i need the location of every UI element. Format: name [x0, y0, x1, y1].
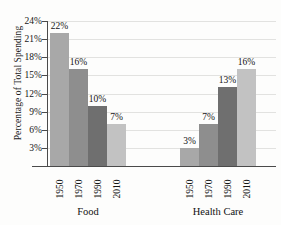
x-axis-group-label: Food	[43, 206, 133, 217]
bar-value-label: 16%	[62, 57, 96, 67]
x-axis-year-label: 1950	[55, 174, 65, 204]
x-axis-year-label: 1990	[223, 174, 233, 204]
y-axis-tick	[42, 148, 48, 149]
bar-chart: Percentage of Total Spending 3%6%9%12%15…	[0, 0, 281, 225]
y-axis-tick	[42, 112, 48, 113]
y-axis-tick	[42, 130, 48, 131]
bar-value-label: 7%	[100, 112, 134, 122]
y-axis-tick	[42, 94, 48, 95]
bar-value-label: 22%	[43, 21, 77, 31]
x-axis-year-label: 1950	[185, 174, 195, 204]
x-axis-year-label: 2010	[242, 174, 252, 204]
y-axis-tick	[42, 39, 48, 40]
bar-value-label: 13%	[211, 75, 245, 85]
bar-value-label: 10%	[81, 94, 115, 104]
x-axis-year-label: 1970	[204, 174, 214, 204]
y-axis-tick	[42, 21, 48, 22]
x-axis-group-label: Health Care	[173, 206, 263, 217]
bar-value-label: 16%	[230, 57, 264, 67]
y-axis-tick	[42, 57, 48, 58]
bar-value-label: 3%	[173, 136, 207, 146]
x-axis-year-label: 2010	[112, 174, 122, 204]
y-axis-tick	[42, 75, 48, 76]
x-axis-year-label: 1970	[74, 174, 84, 204]
x-axis-year-label: 1990	[93, 174, 103, 204]
bar-value-label: 7%	[192, 112, 226, 122]
